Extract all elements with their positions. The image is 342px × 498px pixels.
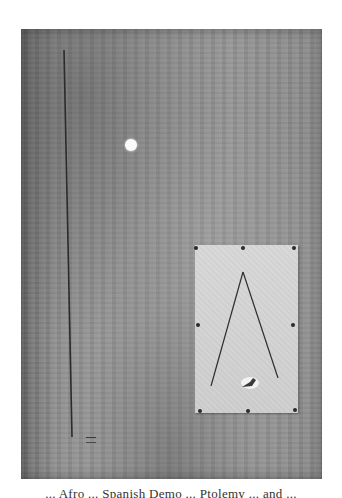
pin-top-center xyxy=(241,246,245,250)
pin-bottom-center xyxy=(246,409,250,413)
pinned-paper xyxy=(195,245,298,413)
pin-middle-right xyxy=(291,323,295,327)
pin-bottom-right xyxy=(293,408,297,412)
pin-middle-left xyxy=(196,323,200,327)
pin-top-left xyxy=(194,246,198,250)
pin-bottom-left xyxy=(198,409,202,413)
signature-mark xyxy=(86,437,96,443)
pin-top-right xyxy=(292,246,296,250)
white-dot xyxy=(125,139,137,151)
caption-text: ... Afro ... Spanish Demo ... Ptolemy ..… xyxy=(0,486,342,498)
